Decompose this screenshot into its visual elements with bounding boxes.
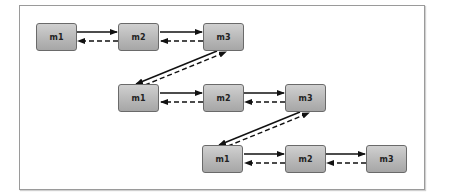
node-label: m2	[299, 155, 313, 164]
node-label: m1	[50, 33, 64, 42]
node-label: m3	[217, 33, 231, 42]
node-label: m2	[217, 94, 231, 103]
edge-r1m3-r2m1-forward	[136, 51, 217, 84]
node-r3-m3: m3	[366, 145, 407, 173]
node-r2-m3: m3	[285, 84, 326, 112]
node-label: m3	[299, 94, 313, 103]
node-r3-m2: m2	[285, 145, 326, 173]
node-r1-m3: m3	[203, 23, 244, 51]
edge-r2m3-r3m1-forward	[219, 112, 300, 145]
edge-r2m1-r1m3-backward	[145, 52, 226, 85]
edge-r3m1-r2m3-backward	[228, 113, 309, 146]
node-r3-m1: m1	[202, 145, 243, 173]
node-label: m1	[132, 94, 146, 103]
node-label: m1	[216, 155, 230, 164]
node-label: m3	[380, 155, 394, 164]
node-r1-m1: m1	[36, 23, 77, 51]
node-label: m2	[132, 33, 146, 42]
node-r2-m1: m1	[118, 84, 159, 112]
node-r1-m2: m2	[118, 23, 159, 51]
node-r2-m2: m2	[203, 84, 244, 112]
